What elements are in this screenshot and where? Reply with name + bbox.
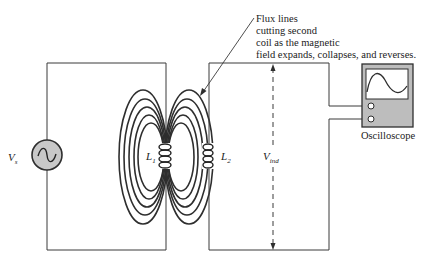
ac-source: Vs <box>8 140 62 170</box>
annotation-line-2: cutting second <box>256 25 318 36</box>
input-terminal-top <box>368 103 374 109</box>
annotation-line-3: coil as the magnetic <box>256 37 340 48</box>
coil-l2: L2 <box>202 143 231 169</box>
annotation-leader-line <box>203 18 254 92</box>
annotation-arrowhead-icon <box>200 88 207 96</box>
mutual-induction-diagram: Vs L1 L2 <box>0 0 430 266</box>
induced-voltage-indicator: Vind <box>262 64 284 250</box>
secondary-wire-lower <box>209 63 366 250</box>
arrow-down-icon <box>271 243 276 250</box>
arrow-up-icon <box>271 64 276 71</box>
annotation-line-4: field expands, collapses, and reverses. <box>256 49 416 60</box>
coil-l1-label: L1 <box>145 150 156 165</box>
oscilloscope-label: Oscilloscope <box>361 130 416 141</box>
input-terminal-bottom <box>368 116 374 122</box>
secondary-circuit <box>209 63 366 250</box>
oscilloscope: Oscilloscope <box>361 64 416 141</box>
annotation-line-1: Flux lines <box>256 13 298 24</box>
coil-l2-label: L2 <box>220 150 231 165</box>
coil-l1: L1 <box>145 143 172 169</box>
secondary-wire <box>209 63 366 106</box>
source-label: Vs <box>8 151 18 166</box>
